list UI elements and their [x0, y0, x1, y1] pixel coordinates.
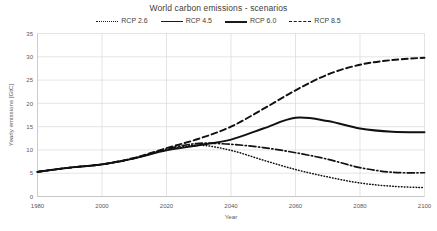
gridlines [38, 34, 425, 197]
plot-area: 0510152025303519802000202020402060208021… [0, 0, 437, 231]
y-tick-label: 25 [26, 77, 33, 83]
y-axis-title: Yearly emissions [GtC] [7, 84, 14, 147]
x-tick-label: 1980 [31, 203, 45, 209]
y-tick-label: 5 [30, 170, 34, 176]
x-tick-label: 2000 [95, 203, 109, 209]
chart-container: World carbon emissions - scenarios RCP 2… [0, 0, 437, 231]
x-tick-label: 2100 [418, 203, 432, 209]
x-tick-label: 2020 [160, 203, 174, 209]
y-tick-label: 0 [30, 194, 34, 200]
y-tick-label: 30 [26, 54, 33, 60]
x-axis-title: Year [225, 213, 238, 220]
y-tick-label: 10 [26, 147, 33, 153]
y-tick-label: 20 [26, 101, 33, 107]
y-tick-label: 35 [26, 31, 33, 37]
x-tick-label: 2060 [289, 203, 303, 209]
axis-labels: 0510152025303519802000202020402060208021… [7, 31, 432, 220]
x-tick-label: 2080 [353, 203, 367, 209]
x-tick-label: 2040 [224, 203, 238, 209]
y-tick-label: 15 [26, 124, 33, 130]
